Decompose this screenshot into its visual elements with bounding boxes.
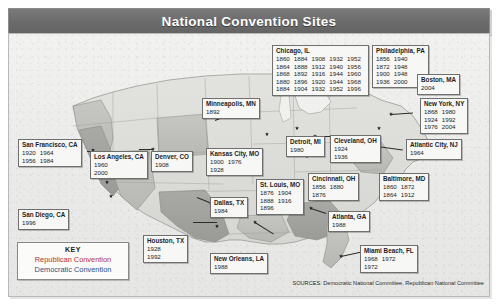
callout-years: 19001976 1928	[210, 158, 246, 173]
callout-baltimore[interactable]: Baltimore, MD 18601872 18641912	[379, 173, 429, 201]
callout-city-name: Houston, TX	[147, 237, 184, 245]
title-bar: National Convention Sites	[8, 8, 490, 34]
callout-cleveland[interactable]: Cleveland, OH 1924 1936	[330, 135, 381, 163]
legend-item-republican: Republican Convention	[22, 255, 124, 265]
leader-line-houston	[193, 222, 217, 223]
callout-city-name: Los Angeles, CA	[94, 153, 144, 161]
legend-key: KEY Republican Convention Democratic Con…	[17, 242, 129, 280]
callout-years: 1908	[155, 161, 173, 169]
callout-dallas[interactable]: Dallas, TX 1984	[210, 197, 248, 218]
callout-years: 18761904 18881916 1896	[260, 189, 296, 212]
legend-title: KEY	[22, 246, 124, 253]
callout-years: 18561940 18721948 19001948 19362000	[376, 55, 412, 85]
callout-city-name: Detroit, MI	[290, 138, 321, 146]
callout-sanfrancisco[interactable]: San Francisco, CA 19201964 19561984	[18, 139, 82, 167]
callout-city-name: Miami Beach, FL	[364, 247, 414, 255]
callout-years: 19681972 1972	[364, 255, 400, 270]
callout-city-name: Dallas, TX	[214, 199, 244, 207]
callout-atlanta[interactable]: Atlanta, GA 1988	[328, 211, 370, 232]
callout-city-name: Denver, CO	[155, 153, 189, 161]
callout-years: 1960 2000	[94, 161, 112, 176]
callout-years: 1892	[206, 108, 224, 116]
callout-years: 1980	[290, 146, 308, 154]
callout-years: 18681980 19241992 19762004	[424, 108, 460, 131]
callout-years: 1988	[332, 221, 350, 229]
callout-city-name: San Francisco, CA	[22, 141, 78, 149]
callout-city-name: Cincinnati, OH	[312, 175, 355, 183]
callout-neworleans[interactable]: New Orleans, LA 1988	[210, 253, 268, 274]
callout-city-name: Kansas City, MO	[210, 150, 259, 158]
callout-years: 19201964 19561984	[22, 149, 58, 164]
callout-city-name: Atlantic City, NJ	[410, 141, 458, 149]
callout-years: 2004	[421, 84, 439, 92]
callout-cincinnati[interactable]: Cincinnati, OH 18561880 1876	[308, 173, 359, 201]
callout-newyork[interactable]: New York, NY 18681980 19241992 19762004	[420, 98, 468, 134]
callout-city-name: San Diego, CA	[22, 211, 65, 219]
callout-city-name: Atlanta, GA	[332, 213, 366, 221]
callout-years: 1924 1936	[334, 145, 352, 160]
callout-city-name: Cleveland, OH	[334, 137, 377, 145]
callout-detroit[interactable]: Detroit, MI 1980	[286, 136, 325, 157]
callout-denver[interactable]: Denver, CO 1908	[151, 151, 193, 172]
callout-city-name: Boston, MA	[421, 76, 456, 84]
callout-losangeles[interactable]: Los Angeles, CA 1960 2000	[90, 151, 148, 179]
callout-years: 1988	[214, 263, 232, 271]
callout-city-name: Baltimore, MD	[383, 175, 425, 183]
sources-note: SOURCES: Democratic National Committee, …	[9, 280, 489, 286]
callout-city-name: Philadelphia, PA	[376, 47, 425, 55]
callout-city-name: St. Louis, MO	[260, 181, 300, 189]
callout-city-name: Minneapolis, MN	[206, 100, 256, 108]
callout-sandiego[interactable]: San Diego, CA 1996	[18, 209, 69, 230]
callout-minneapolis[interactable]: Minneapolis, MN 1892	[202, 98, 260, 119]
callout-years: 1996	[22, 219, 40, 227]
callout-years: 1928 1992	[147, 245, 165, 260]
callout-years: 1984	[214, 207, 232, 215]
callout-atlanticcity[interactable]: Atlantic City, NJ 1964	[406, 139, 462, 160]
callout-chicago[interactable]: Chicago, IL 18601884190819321952 1864188…	[272, 45, 369, 96]
callout-years: 1964	[410, 149, 428, 157]
screenshot-root: National Convention Sites	[0, 0, 496, 304]
callout-miamibeach[interactable]: Miami Beach, FL 19681972 1972	[360, 245, 418, 273]
callout-years: 18561880 1876	[312, 183, 348, 198]
callout-kansascity[interactable]: Kansas City, MO 19001976 1928	[206, 148, 263, 176]
leader-line-denver	[139, 149, 153, 150]
legend-item-democratic: Democratic Convention	[22, 265, 124, 275]
callout-boston[interactable]: Boston, MA 2004	[417, 74, 460, 95]
callout-city-name: New York, NY	[424, 100, 464, 108]
callout-stlouis[interactable]: St. Louis, MO 18761904 18881916 1896	[256, 179, 304, 215]
page-title: National Convention Sites	[162, 14, 337, 29]
callout-houston[interactable]: Houston, TX 1928 1992	[143, 235, 188, 263]
callout-years: 18601884190819321952 1864188819121940195…	[276, 55, 365, 93]
callout-city-name: New Orleans, LA	[214, 255, 264, 263]
callout-years: 18601872 18641912	[383, 183, 419, 198]
callout-city-name: Chicago, IL	[276, 47, 365, 55]
map-frame: Chicago, IL 18601884190819321952 1864188…	[8, 33, 490, 297]
